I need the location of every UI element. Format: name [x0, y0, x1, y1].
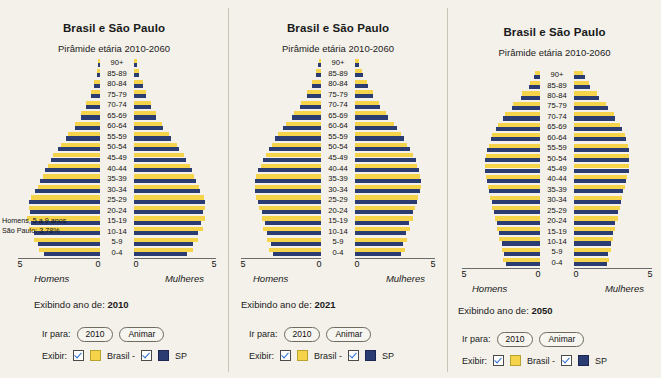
bar-sp-male [487, 148, 540, 152]
bar-sp-female [355, 115, 388, 119]
bar-sp-female [134, 189, 200, 193]
checkbox-sp[interactable] [348, 350, 359, 361]
bar-sp-female [134, 136, 171, 140]
age-group-label: 5-9 [100, 238, 134, 246]
animate-button[interactable]: Animar [326, 327, 371, 342]
axis-names-2050: Homens Mulheres [462, 283, 652, 296]
year-input[interactable]: 2010 [284, 327, 321, 342]
age-group-label: 90+ [321, 59, 355, 67]
age-group-label: 40-44 [321, 165, 355, 173]
age-group-label: 80-84 [540, 92, 574, 100]
age-group-label: 65-69 [321, 112, 355, 120]
age-group-label: 85-89 [100, 70, 134, 78]
male-half [241, 58, 321, 258]
pyramid-chart-2021: 0-45-910-1415-1920-2425-2930-3435-3940-4… [241, 58, 435, 258]
bar-sp-male [51, 158, 100, 162]
panel-2050: Brasil e São Paulo Pirâmide etária 2010-… [448, 0, 661, 378]
bar-sp-female [574, 127, 622, 131]
axis-label-homens: Homens [34, 273, 69, 284]
legend-label-sp: SP [175, 351, 187, 361]
bar-sp-female [134, 126, 163, 130]
bar-sp-female [134, 115, 156, 119]
age-group-label: 25-29 [321, 196, 355, 204]
bar-sp-male [497, 221, 540, 225]
bar-sp-female [574, 241, 611, 245]
female-half [574, 70, 652, 268]
bar-sp-male [487, 179, 540, 183]
checkbox-brasil[interactable] [493, 355, 504, 366]
swatch-sp [578, 355, 589, 366]
displayed-year-2010: Exibindo ano de: 2010 [34, 299, 129, 310]
bar-sp-male [496, 127, 540, 131]
age-group-label: 55-59 [540, 144, 574, 152]
age-group-label: 15-19 [540, 228, 574, 236]
animate-button[interactable]: Animar [119, 327, 164, 342]
bar-sp-male [512, 106, 540, 110]
bar-sp-female [134, 221, 201, 225]
displayed-year-value: 2050 [531, 305, 552, 316]
age-group-label: 30-34 [321, 186, 355, 194]
animate-button[interactable]: Animar [539, 332, 584, 347]
age-group-label: 10-14 [321, 228, 355, 236]
bar-sp-male [485, 169, 540, 173]
year-input[interactable]: 2010 [77, 327, 114, 342]
displayed-year-value: 2021 [314, 299, 335, 310]
age-group-label: 55-59 [321, 133, 355, 141]
bar-sp-female [574, 96, 599, 100]
bar-sp-male [263, 158, 321, 162]
bar-sp-male [30, 210, 100, 214]
bar-sp-female [574, 179, 626, 183]
male-half [462, 70, 540, 268]
age-group-label: 85-89 [321, 70, 355, 78]
plot-area: 0-45-910-1415-1920-2425-2930-3435-3940-4… [462, 70, 652, 268]
bar-sp-female [134, 158, 186, 162]
bar-sp-male [91, 94, 101, 98]
age-group-label: 30-34 [100, 186, 134, 194]
bar-sp-male [66, 136, 100, 140]
bar-sp-female [355, 179, 421, 183]
bar-sp-male [307, 94, 321, 98]
checkbox-brasil[interactable] [73, 350, 84, 361]
show-label: Exibir: [42, 351, 67, 361]
checkbox-brasil[interactable] [280, 350, 291, 361]
pyramid-chart-2050: 0-45-910-1415-1920-2425-2930-3435-3940-4… [462, 70, 652, 268]
bar-sp-female [355, 189, 420, 193]
year-input[interactable]: 2010 [497, 332, 534, 347]
age-group-label: 80-84 [100, 80, 134, 88]
bar-sp-female [134, 200, 205, 204]
age-group-label: 10-14 [540, 238, 574, 246]
checkbox-sp[interactable] [561, 355, 572, 366]
bar-sp-female [134, 242, 193, 246]
value-axis-2050: 5 0 0 5 [462, 268, 652, 281]
axis-label-homens: Homens [253, 273, 288, 284]
bar-sp-female [355, 242, 403, 246]
bar-sp-male [265, 221, 321, 225]
page-subtitle: Pirâmide etária 2010-2060 [229, 43, 447, 54]
bar-sp-female [574, 231, 613, 235]
bar-sp-male [485, 158, 540, 162]
page-title: Brasil e São Paulo [229, 22, 447, 34]
swatch-sp [365, 350, 376, 361]
age-axis-labels: 0-45-910-1415-1920-2425-2930-3435-3940-4… [540, 70, 574, 268]
age-group-label: 30-34 [540, 196, 574, 204]
bar-sp-female [574, 106, 608, 110]
bar-sp-male [262, 210, 321, 214]
goto-row-2050: Ir para: 2010 Animar [462, 332, 584, 347]
show-label: Exibir: [249, 351, 274, 361]
bar-sp-female [134, 252, 187, 256]
age-group-label: 65-69 [100, 112, 134, 120]
bar-sp-female [355, 63, 359, 67]
checkbox-sp[interactable] [141, 350, 152, 361]
annotation-text: Homens, 5 a 9 anos São Paulo: 3,78% [2, 216, 72, 235]
age-axis-labels: 0-45-910-1415-1920-2425-2930-3435-3940-4… [100, 58, 134, 258]
bar-sp-male [283, 126, 321, 130]
age-group-label: 70-74 [100, 101, 134, 109]
swatch-sp [158, 350, 169, 361]
age-group-label: 25-29 [100, 196, 134, 204]
swatch-brasil [510, 355, 521, 366]
displayed-year-value: 2010 [107, 299, 128, 310]
bar-sp-female [134, 94, 146, 98]
bar-sp-female [574, 75, 585, 79]
age-group-label: 75-79 [100, 91, 134, 99]
bar-sp-male [58, 147, 100, 151]
